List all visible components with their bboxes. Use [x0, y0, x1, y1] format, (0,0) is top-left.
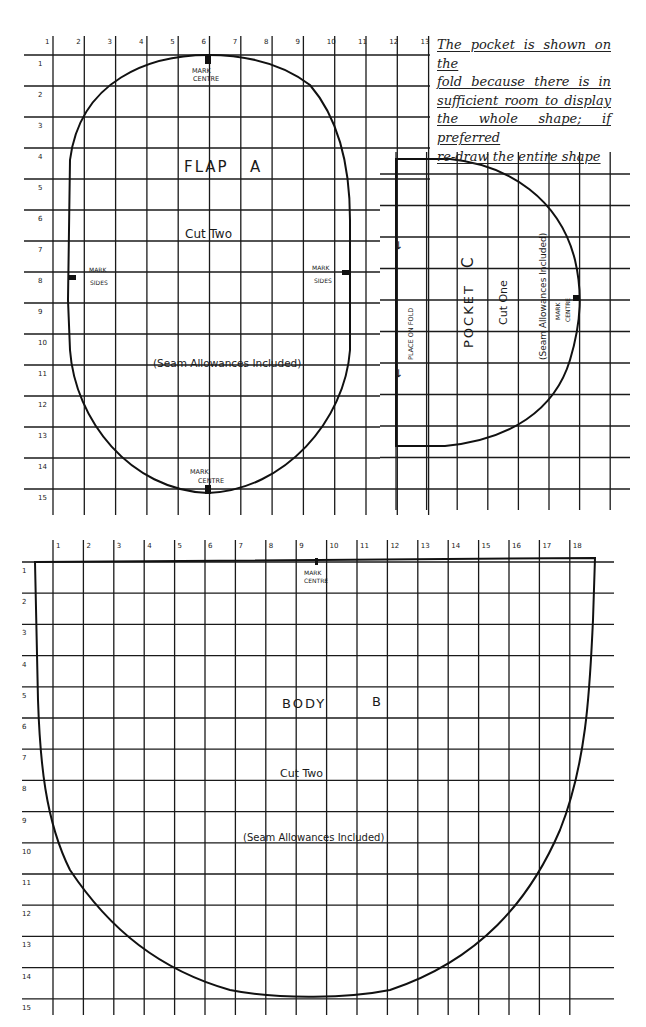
flap-cut: Cut Two: [185, 227, 232, 241]
flap-title: FLAP: [184, 158, 229, 176]
grid-label: 4: [38, 153, 43, 161]
grid-label: 5: [178, 542, 182, 550]
note-line: sufficient room to display: [437, 92, 611, 111]
body-seam: (Seam Allowances Included): [243, 832, 384, 843]
pocket-letter: C: [459, 258, 477, 268]
pocket-seam: (Seam Allowances Included): [538, 233, 548, 360]
grid-label: 14: [38, 463, 47, 471]
body-centre-mark: [315, 558, 318, 565]
grid-label: 12: [38, 401, 47, 409]
pocket-mark-1: MARK: [554, 302, 561, 320]
grid-label: 3: [22, 629, 26, 637]
note-line: the whole shape; if preferred: [437, 110, 611, 147]
grid-label: 11: [22, 879, 31, 887]
grid-label: 10: [327, 38, 336, 46]
grid-label: 5: [22, 692, 26, 700]
grid-label: 11: [38, 370, 47, 378]
grid-label: 8: [269, 542, 273, 550]
grid-label: 6: [208, 542, 213, 550]
grid-label: 15: [482, 542, 491, 550]
grid-label: 11: [358, 38, 367, 46]
grid-label: 13: [22, 941, 31, 949]
pocket-centre-mark: [573, 295, 579, 301]
pocket-fold-note: The pocket is shown on the fold because …: [437, 36, 611, 166]
grid-label: 7: [38, 246, 42, 254]
pocket-fold-label: PLACE ON FOLD: [407, 308, 415, 360]
grid-label: 1: [56, 542, 60, 550]
pocket-mark-2: CENTRE: [564, 298, 571, 322]
flap-mark-top-1: MARK: [192, 67, 212, 75]
flap-mark-right-1: MARK: [312, 264, 330, 271]
grid-label: 15: [38, 494, 47, 502]
note-line: fold because there is in: [437, 73, 611, 92]
grid-label: 14: [22, 973, 31, 981]
flap-side-mark-right: [342, 270, 350, 275]
grid-label: 13: [421, 542, 430, 550]
flap-mark-top-2: CENTRE: [193, 75, 219, 83]
flap-mark-right-2: SIDES: [314, 277, 332, 284]
grid-label: 9: [38, 308, 42, 316]
grid-label: 8: [22, 785, 26, 793]
flap-grid: [24, 36, 430, 515]
grid-label: 18: [573, 542, 582, 550]
pocket-arrow-bottom: ←: [392, 369, 405, 378]
grid-label: 13: [38, 432, 47, 440]
grid-label: 7: [238, 542, 242, 550]
grid-label: 4: [147, 542, 152, 550]
body-cut: Cut Two: [280, 767, 323, 780]
grid-label: 3: [38, 122, 42, 130]
body-mark-1: MARK: [304, 569, 322, 576]
grid-label: 6: [22, 723, 27, 731]
pocket-cut: Cut One: [497, 280, 510, 325]
body-title: BODY: [282, 696, 326, 711]
body-mark-2: CENTRE: [304, 577, 328, 584]
grid-label: 9: [295, 38, 299, 46]
grid-label: 10: [22, 848, 31, 856]
grid-label: 5: [38, 184, 42, 192]
pocket-grid: [380, 152, 630, 510]
grid-label: 12: [389, 38, 398, 46]
grid-label: 12: [22, 910, 31, 918]
flap-mark-bottom-1: MARK: [190, 468, 210, 476]
grid-label: 11: [360, 542, 369, 550]
flap-mark-left-2: SIDES: [90, 279, 108, 286]
flap-centre-mark-bottom: [205, 485, 211, 494]
grid-label: 7: [22, 754, 26, 762]
grid-label: 2: [22, 598, 26, 606]
grid-label: 1: [22, 567, 26, 575]
grid-label: 8: [264, 38, 268, 46]
pocket-title: POCKET: [461, 284, 476, 348]
grid-label: 1: [38, 60, 42, 68]
flap-seam: (Seam Allowances Included): [153, 357, 301, 369]
grid-label: 1: [45, 38, 49, 46]
grid-label: 17: [542, 542, 551, 550]
grid-label: 9: [299, 542, 303, 550]
flap-centre-mark-top: [205, 55, 211, 64]
note-line: re-draw the entire shape: [437, 148, 611, 167]
grid-label: 14: [451, 542, 460, 550]
grid-label: 2: [76, 38, 80, 46]
grid-label: 15: [22, 1004, 31, 1012]
grid-label: 2: [86, 542, 90, 550]
grid-label: 6: [202, 38, 207, 46]
grid-label: 3: [117, 542, 121, 550]
grid-label: 5: [170, 38, 174, 46]
grid-label: 16: [512, 542, 521, 550]
body-letter: B: [372, 694, 381, 709]
grid-label: 7: [233, 38, 237, 46]
flap-side-mark-left: [68, 275, 76, 280]
grid-label: 10: [38, 339, 47, 347]
grid-label: 8: [38, 277, 42, 285]
flap-letter: A: [250, 158, 261, 176]
pocket-arrow-top: ←: [392, 241, 405, 250]
grid-label: 12: [390, 542, 399, 550]
note-line: The pocket is shown on the: [437, 36, 611, 73]
grid-label: 3: [108, 38, 112, 46]
flap-mark-bottom-2: CENTRE: [198, 477, 224, 485]
grid-label: 4: [139, 38, 144, 46]
grid-label: 2: [38, 91, 42, 99]
grid-label: 4: [22, 661, 27, 669]
grid-label: 10: [330, 542, 339, 550]
grid-label: 13: [421, 38, 430, 46]
grid-label: 9: [22, 817, 26, 825]
